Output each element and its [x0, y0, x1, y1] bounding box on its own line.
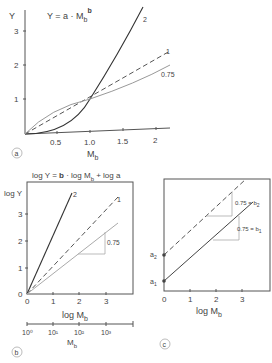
secondary-tick: 10³ [101, 329, 112, 336]
panel-a-x-tick: 0.5 [50, 138, 62, 147]
panel-c-x-tick: 0 [162, 295, 167, 304]
secondary-axis-label: Mb [67, 338, 78, 349]
panel-b-y-tick: 3 [18, 210, 23, 219]
panel-a-y-tick: 3 [14, 27, 19, 36]
panel-b-equation: log Y = b · log Mb + log a [32, 171, 121, 182]
curve-b-2 [25, 7, 143, 134]
slope-triangle-lower [213, 216, 239, 240]
intercept-a2-dot [162, 253, 166, 257]
panel-a-x-tick: 2 [153, 136, 158, 145]
panel-c-letter: c [163, 341, 167, 348]
panel-a-y-axis-label: Y [9, 11, 15, 21]
secondary-tick: 10⁰ [22, 329, 33, 336]
curve-label-2: 2 [143, 16, 147, 23]
panel-b-x-tick: 2 [77, 297, 82, 306]
panel-a-x-tick: 1.5 [117, 137, 129, 146]
panel-b-x-tick: 0 [25, 297, 30, 306]
panel-a-letter: a [15, 150, 19, 157]
slope-label: 0.75 [107, 239, 120, 246]
line-a2 [164, 179, 246, 255]
secondary-tick: 10² [74, 329, 85, 336]
line-b-2 [27, 193, 72, 294]
curve-label-075: 0.75 [161, 71, 175, 78]
line-b-1 [27, 197, 118, 294]
line-label-1: 1 [117, 196, 121, 203]
panel-b-y-tick: 1 [18, 264, 23, 273]
figure-canvas: Y 1 2 3 0.5 1.0 1.5 2 Mb Y = a · Mbb 2 1… [0, 0, 272, 363]
curve-b-075 [25, 65, 170, 134]
intercept-a1-label: a1 [150, 278, 157, 287]
panel-c-frame [164, 179, 270, 291]
panel-a-y-tick: 2 [14, 61, 19, 70]
curve-label-1: 1 [166, 48, 170, 55]
panel-b-y-axis-label: log Y [4, 189, 23, 198]
line-b-075 [27, 223, 118, 294]
panel-b-letter: b [15, 349, 19, 356]
panel-a: Y 1 2 3 0.5 1.0 1.5 2 Mb Y = a · Mbb 2 1… [9, 7, 175, 161]
panel-a-y-tick: 1 [14, 95, 19, 104]
panel-a-x-axis [25, 128, 170, 134]
panel-a-equation: Y = a · Mbb [47, 7, 92, 23]
intercept-a2-label: a2 [150, 251, 157, 260]
panel-c-x-tick: 2 [214, 295, 219, 304]
secondary-tick: 10¹ [48, 329, 59, 336]
panel-c-x-tick: 1 [188, 295, 193, 304]
panel-b-x-tick: 1 [51, 297, 56, 306]
panel-b-x-axis-label: log Mb [62, 310, 88, 322]
panel-b-y-tick: 0 [18, 290, 23, 299]
intercept-a1-dot [162, 279, 166, 283]
panel-a-x-axis-label: Mb [87, 149, 99, 161]
panel-c-x-tick: 3 [240, 295, 245, 304]
panel-c-x-axis-label: log Mb [196, 306, 222, 318]
panel-b-x-tick: 3 [104, 297, 109, 306]
panel-c: 0 1 2 3 log Mb a2 a1 0.75 = b2 0.75 = b1… [150, 179, 270, 349]
panel-b-y-tick: 2 [18, 237, 23, 246]
panel-b: log Y = b · log Mb + log a log Y 0 1 2 3… [4, 171, 133, 357]
line-label-2: 2 [73, 191, 77, 198]
slope-label-lower: 0.75 = b1 [237, 226, 262, 234]
panel-a-x-tick: 1.0 [84, 138, 96, 147]
curve-b-1 [25, 51, 170, 134]
